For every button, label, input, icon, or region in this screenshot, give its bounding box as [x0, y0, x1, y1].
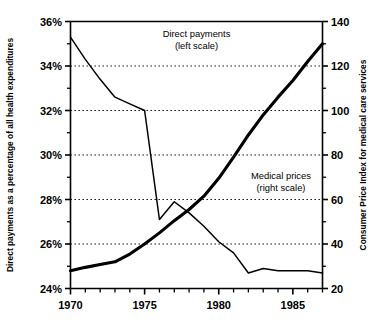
- x-axis-tick-label: 1985: [281, 299, 305, 311]
- y-axis-left-title: Direct payments as a percentage of all h…: [5, 38, 15, 272]
- dual-axis-line-chart: 24%26%28%30%32%34%36%2040608010012014019…: [0, 0, 375, 326]
- chart-container: 24%26%28%30%32%34%36%2040608010012014019…: [0, 0, 375, 326]
- y-axis-right-tick-label: 120: [331, 60, 349, 72]
- y-axis-left-tick-label: 36%: [40, 16, 62, 28]
- series-line-medical-prices: [71, 44, 323, 271]
- direct-payments-label-line2: (left scale): [175, 40, 218, 51]
- y-axis-left-tick-label: 24%: [40, 283, 62, 295]
- x-axis-tick-label: 1970: [58, 299, 82, 311]
- y-axis-right-tick-label: 20: [331, 283, 343, 295]
- x-axis-tick-label: 1975: [132, 299, 156, 311]
- y-axis-left-tick-label: 32%: [40, 105, 62, 117]
- y-axis-right-tick-label: 60: [331, 194, 343, 206]
- series-line-direct-payments: [71, 37, 323, 273]
- medical-prices-label-line2: (right scale): [257, 182, 306, 193]
- y-axis-right-tick-label: 80: [331, 149, 343, 161]
- x-axis-tick-label: 1980: [206, 299, 230, 311]
- y-axis-left-tick-label: 30%: [40, 149, 62, 161]
- y-axis-right-tick-label: 40: [331, 238, 343, 250]
- y-axis-right-title: Consumer Price Index for medical care se…: [358, 59, 368, 250]
- y-axis-left-tick-label: 26%: [40, 238, 62, 250]
- y-axis-right-tick-label: 140: [331, 16, 349, 28]
- direct-payments-label-line1: Direct payments: [163, 28, 231, 39]
- medical-prices-label-line1: Medical prices: [251, 170, 311, 181]
- y-axis-left-tick-label: 28%: [40, 194, 62, 206]
- y-axis-right-tick-label: 100: [331, 105, 349, 117]
- y-axis-left-tick-label: 34%: [40, 60, 62, 72]
